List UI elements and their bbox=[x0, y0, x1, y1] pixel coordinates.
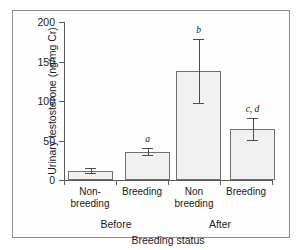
group-label-after: After bbox=[194, 218, 246, 230]
x-category-label-nonbreeding-before: Non- breeding bbox=[64, 186, 116, 210]
error-cap-upper-breeding-after bbox=[247, 118, 258, 119]
error-cap-upper-breeding-before bbox=[142, 148, 153, 149]
x-tick-0 bbox=[64, 180, 65, 185]
error-cap-lower-nonbreeding-before bbox=[85, 173, 96, 174]
error-cap-upper-nonbreeding-after bbox=[193, 39, 204, 40]
x-category-line-2: breeding bbox=[64, 198, 116, 210]
significance-label-4: c, d bbox=[232, 104, 273, 114]
y-axis-line bbox=[64, 22, 65, 180]
error-cap-lower-breeding-before bbox=[142, 155, 153, 156]
significance-label-2: a bbox=[127, 134, 168, 144]
x-category-label-nonbreeding-after: Non breeding bbox=[168, 186, 220, 210]
x-tick-4 bbox=[272, 180, 273, 185]
x-category-line-1: Non- bbox=[64, 186, 116, 198]
error-bar-nonbreeding-after bbox=[199, 39, 200, 103]
error-bar-breeding-before bbox=[148, 148, 149, 155]
error-bar-breeding-after bbox=[253, 118, 254, 140]
x-category-label-breeding-before: Breeding bbox=[116, 186, 168, 198]
x-category-line-1: Breeding bbox=[116, 186, 168, 198]
x-tick-2 bbox=[168, 180, 169, 185]
x-tick-3 bbox=[220, 180, 221, 185]
group-label-before: Before bbox=[90, 218, 142, 230]
x-tick-1 bbox=[116, 180, 117, 185]
significance-label-3: b bbox=[178, 25, 219, 35]
error-cap-upper-nonbreeding-before bbox=[85, 168, 96, 169]
error-cap-lower-nonbreeding-after bbox=[193, 103, 204, 104]
bar-breeding-before[interactable] bbox=[125, 152, 170, 180]
y-axis-label: Urinary testosterone (ng/mg Cr) bbox=[46, 22, 60, 180]
x-category-label-breeding-after: Breeding bbox=[220, 186, 272, 198]
error-cap-lower-breeding-after bbox=[247, 140, 258, 141]
plot-area: 200 150 100 50 0 Urinary testosterone (n… bbox=[64, 22, 276, 180]
x-axis-label: Breeding status bbox=[64, 234, 272, 246]
x-category-line-1: Non bbox=[168, 186, 220, 198]
x-category-line-1: Breeding bbox=[220, 186, 272, 198]
x-category-line-2: breeding bbox=[168, 198, 220, 210]
figure-container: 200 150 100 50 0 Urinary testosterone (n… bbox=[0, 0, 302, 250]
